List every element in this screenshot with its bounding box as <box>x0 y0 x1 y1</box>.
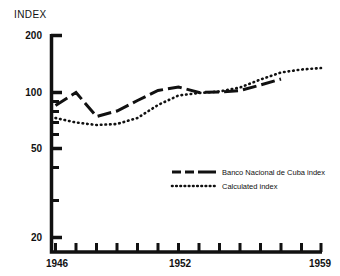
series-line-calculated <box>56 68 322 125</box>
series-line-banco-nacional <box>56 79 282 117</box>
y-tick-label-50: 50 <box>31 143 43 154</box>
y-axis-title: INDEX <box>14 9 47 20</box>
x-tick-label-1946: 1946 <box>46 258 69 269</box>
y-tick-label-200: 200 <box>25 30 42 41</box>
axis-frame <box>52 34 323 252</box>
chart-page: INDEX 200 100 50 20 <box>0 0 340 276</box>
legend-label-banco-nacional: Banco Nacional de Cuba index <box>222 168 325 177</box>
legend-label-calculated: Calculated index <box>222 182 278 191</box>
chart-legend: Banco Nacional de Cuba index Calculated … <box>172 168 325 191</box>
index-line-chart: INDEX 200 100 50 20 <box>0 0 340 276</box>
y-tick-label-100: 100 <box>25 87 42 98</box>
y-tick-label-20: 20 <box>31 232 43 243</box>
x-tick-label-1952: 1952 <box>169 258 192 269</box>
x-tick-label-1959: 1959 <box>309 258 332 269</box>
